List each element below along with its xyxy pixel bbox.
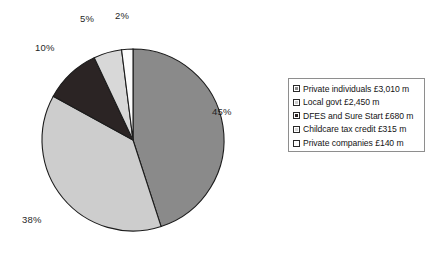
- legend-item: DFES and Sure Start £680 m: [293, 109, 420, 123]
- legend-swatch-icon: [293, 99, 300, 106]
- pie-label-private-companies: 2%: [115, 11, 129, 21]
- pie-slice-group: [42, 49, 224, 231]
- pie-chart-figure: 45% 38% 10% 5% 2% Private individuals £3…: [0, 0, 437, 266]
- legend-item: Private individuals £3,010 m: [293, 82, 420, 96]
- legend-item-label: DFES and Sure Start £680 m: [303, 112, 413, 121]
- legend-swatch-icon: [293, 140, 300, 147]
- pie-plot-area: [0, 0, 270, 266]
- pie-label-private-individuals: 45%: [212, 107, 232, 117]
- legend-item-label: Childcare tax credit £315 m: [303, 125, 406, 134]
- legend-item: Private companies £140 m: [293, 136, 420, 150]
- legend-item: Childcare tax credit £315 m: [293, 123, 420, 137]
- pie-label-childcare-tax-credit: 5%: [80, 14, 94, 24]
- legend-swatch-icon: [293, 112, 300, 119]
- legend-swatch-icon: [293, 85, 300, 92]
- legend-item-label: Local govt £2,450 m: [303, 98, 379, 107]
- pie-svg: [0, 0, 270, 266]
- pie-label-dfes-sure-start: 10%: [35, 43, 55, 53]
- legend-swatch-icon: [293, 126, 300, 133]
- legend-item-label: Private individuals £3,010 m: [303, 85, 409, 94]
- pie-label-local-govt: 38%: [22, 215, 42, 225]
- legend-item-label: Private companies £140 m: [303, 139, 404, 148]
- chart-legend: Private individuals £3,010 mLocal govt £…: [288, 78, 425, 152]
- legend-item: Local govt £2,450 m: [293, 96, 420, 110]
